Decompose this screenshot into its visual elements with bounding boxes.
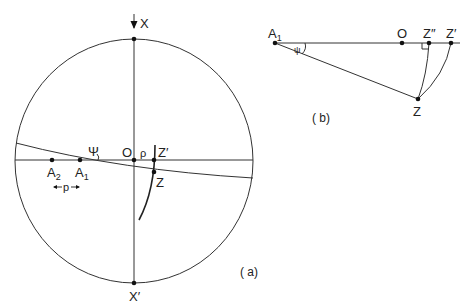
panel-b: A1 ψ O Z″ Z′ Z ( b) (268, 26, 460, 125)
b-point-o (400, 41, 405, 46)
point-a1 (78, 158, 83, 163)
label-o: O (122, 145, 132, 160)
point-x (132, 37, 137, 42)
point-z-prime (152, 158, 157, 163)
label-x-prime: X′ (129, 289, 141, 304)
diagram-svg: X X′ O ρ Z′ Z Ψ A1 A2 p ( a) (0, 0, 473, 308)
b-label-o: O (397, 26, 407, 41)
point-o (132, 158, 137, 163)
b-point-z-prime (449, 41, 454, 46)
panel-a-caption: ( a) (240, 265, 258, 279)
label-a1: A1 (75, 165, 89, 182)
point-a2 (50, 158, 55, 163)
label-a2: A2 (47, 165, 61, 182)
label-z-prime: Z′ (158, 145, 169, 160)
b-label-z-double-prime: Z″ (423, 26, 436, 41)
label-x: X (140, 16, 149, 31)
b-point-z-double-prime (427, 41, 432, 46)
p-arrow-left-head (53, 185, 57, 189)
panel-b-caption: ( b) (312, 111, 330, 125)
b-arc-z-z-double-prime (418, 43, 429, 99)
label-p: p (63, 181, 69, 193)
b-label-z: Z (413, 104, 421, 119)
panel-a: X X′ O ρ Z′ Z Ψ A1 A2 p ( a) (15, 14, 258, 304)
point-z (152, 170, 157, 175)
p-arrow-right-head (76, 185, 80, 189)
b-label-z-prime: Z′ (446, 26, 457, 41)
b-psi-arc (302, 43, 306, 54)
b-label-psi: ψ (294, 45, 300, 55)
label-z: Z (156, 175, 164, 190)
stereographic-diagram: X X′ O ρ Z′ Z Ψ A1 A2 p ( a) (0, 0, 473, 308)
b-point-z (416, 97, 421, 102)
b-label-a1: A1 (268, 26, 282, 43)
label-rho: ρ (140, 147, 146, 159)
x-arrow-head (131, 21, 138, 29)
point-x-prime (132, 281, 137, 286)
label-psi-a: Ψ (88, 144, 99, 159)
b-arc-z-z-prime (418, 43, 451, 99)
